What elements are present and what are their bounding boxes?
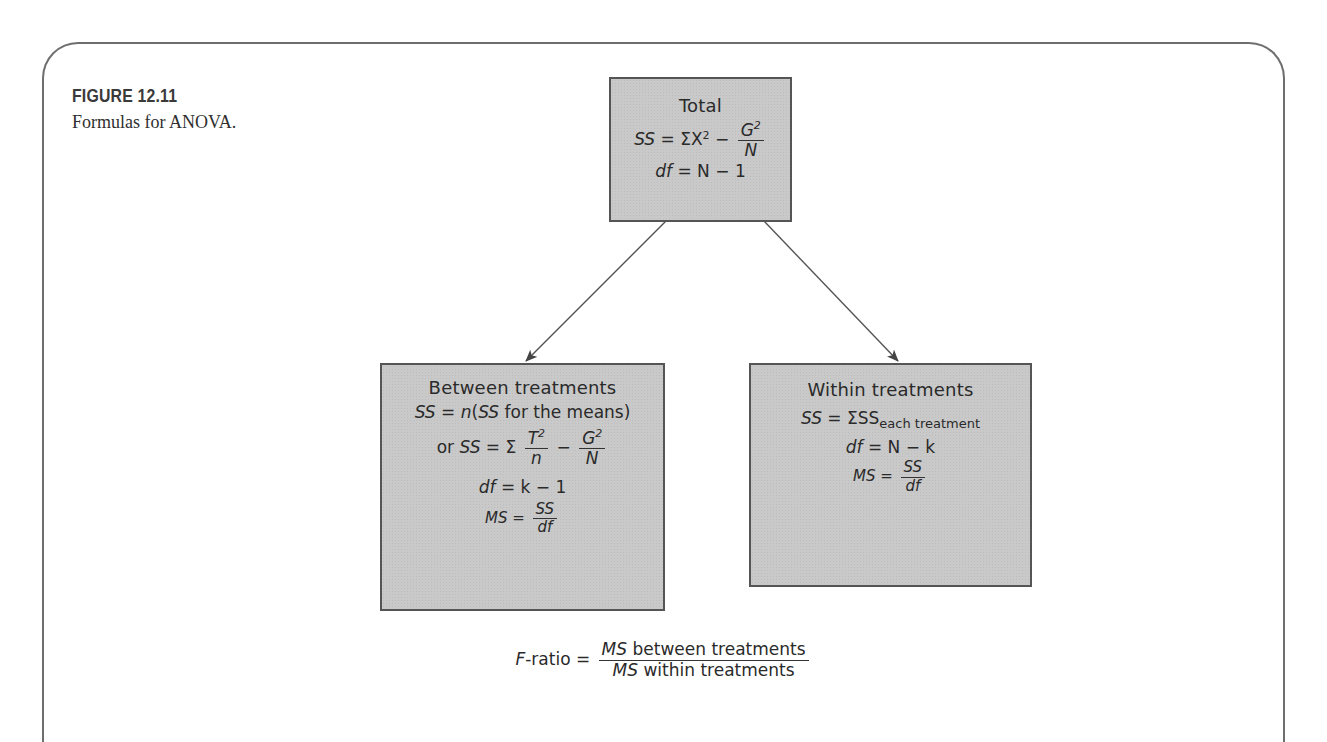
between-ss-formula-2: or SS = Σ T2n − G2N [382,428,663,469]
arrow-to-within [764,221,898,361]
between-title: Between treatments [382,377,663,398]
within-ms-formula: MS = SSdf [751,459,1030,495]
between-ms-formula: MS = SSdf [382,501,663,537]
total-box: Total SS = ΣX2 − G2N df = N − 1 [609,77,792,222]
arrow-to-between [526,221,666,361]
between-df-formula: df = k − 1 [382,477,663,497]
f-ratio-formula: F-ratio = MS between treatments MS withi… [0,640,1327,680]
total-df-formula: df = N − 1 [611,161,790,181]
between-ss-formula-1: SS = n(SS for the means) [382,402,663,422]
within-box: Within treatments SS = ΣSSeach treatment… [749,363,1032,587]
within-df-formula: df = N − k [751,437,1030,457]
total-title: Total [611,95,790,116]
within-title: Within treatments [751,379,1030,400]
within-ss-formula: SS = ΣSSeach treatment [751,408,1030,431]
total-ss-formula: SS = ΣX2 − G2N [611,120,790,161]
between-box: Between treatments SS = n(SS for the mea… [380,363,665,611]
